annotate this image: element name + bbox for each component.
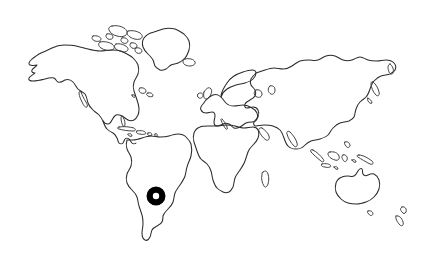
world-map-svg — [0, 0, 434, 253]
world-map-figure: World map outline with single location m… — [0, 0, 434, 253]
